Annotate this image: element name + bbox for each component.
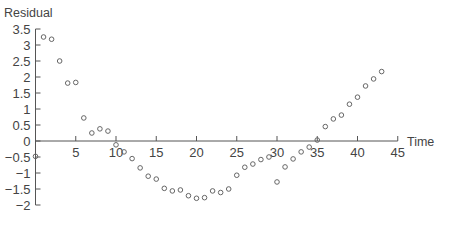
x-tick-label: 20 (189, 145, 203, 160)
data-point (146, 174, 151, 179)
y-tick-label: 2.5 (12, 54, 30, 69)
data-point (210, 189, 215, 194)
data-point (130, 156, 135, 161)
x-tick-label: 40 (350, 145, 364, 160)
data-point (57, 59, 62, 64)
data-point (355, 95, 360, 100)
data-point (275, 180, 280, 185)
x-tick-label: 5 (72, 145, 79, 160)
data-point (259, 157, 264, 162)
data-point (162, 186, 167, 191)
y-tick-label: −0.5 (5, 150, 31, 165)
data-point (90, 131, 95, 136)
data-point (186, 193, 191, 198)
y-tick-label: 3 (23, 38, 30, 53)
data-point (379, 69, 384, 74)
x-tick-label: 30 (270, 145, 284, 160)
data-point (202, 195, 207, 200)
data-point (299, 150, 304, 155)
y-tick-label: −2 (16, 198, 31, 213)
y-tick-label: 2 (23, 70, 30, 85)
data-point (339, 113, 344, 118)
data-point (194, 196, 199, 201)
residual-scatter-chart: Residual Time 3.532.521.510.50−0.5−1−1.5… (0, 0, 451, 225)
data-point (73, 80, 78, 85)
data-point (98, 127, 103, 132)
x-axis-title: Time (407, 135, 434, 149)
data-point (371, 77, 376, 82)
data-point (347, 102, 352, 107)
y-axis-title: Residual (4, 6, 53, 20)
data-point (154, 177, 159, 182)
data-point (251, 162, 256, 167)
data-point (291, 157, 296, 162)
data-point (283, 165, 288, 170)
y-tick-label: −1 (16, 166, 31, 181)
x-tick-label: 35 (310, 145, 324, 160)
y-axis: 3.532.521.510.50−0.5−1−1.5−2 (5, 22, 41, 213)
data-points (33, 35, 384, 201)
data-point (178, 188, 183, 193)
data-point (331, 117, 336, 122)
data-point (170, 189, 175, 194)
x-tick-label: 45 (391, 145, 405, 160)
y-tick-label: −1.5 (5, 182, 31, 197)
x-tick-label: 15 (149, 145, 163, 160)
y-tick-label: 3.5 (12, 22, 30, 37)
data-point (82, 116, 87, 121)
data-point (363, 84, 368, 89)
y-tick-label: 1.5 (12, 86, 30, 101)
y-tick-label: 0 (23, 134, 30, 149)
y-tick-label: 1 (23, 102, 30, 117)
data-point (106, 129, 111, 134)
x-tick-label: 25 (230, 145, 244, 160)
x-axis: 51015202530354045 (36, 136, 405, 160)
data-point (65, 81, 70, 86)
data-point (218, 190, 223, 195)
data-point (226, 187, 231, 192)
data-point (138, 166, 143, 171)
data-point (323, 124, 328, 129)
data-point (41, 35, 46, 40)
y-tick-label: 0.5 (12, 118, 30, 133)
data-point (234, 173, 239, 178)
data-point (49, 37, 54, 42)
data-point (243, 165, 248, 170)
